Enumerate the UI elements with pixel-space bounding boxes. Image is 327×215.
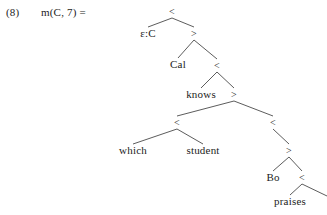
tree-node-n8: < <box>270 117 276 128</box>
tree-node-n9: which <box>119 145 147 156</box>
tree-node-n6: > <box>231 89 237 100</box>
tree-node-n5: knows <box>186 89 216 100</box>
figure-canvas: (8) m(C, 7) = <ε:C>Cal<knows><<whichstud… <box>0 0 327 215</box>
tree-edge-n4-n5 <box>201 72 217 88</box>
tree-edge-n2-n3 <box>178 40 194 58</box>
tree-edge-n4-n6 <box>217 72 234 88</box>
tree-node-n3: Cal <box>170 59 186 70</box>
tree-node-n2: > <box>191 28 197 39</box>
tree-node-n13: < <box>299 172 305 183</box>
tree-node-n14: praises <box>274 196 306 207</box>
tree-edge-n6-n8 <box>234 101 273 116</box>
tree-edge-n2-n4 <box>194 40 217 59</box>
tree-edge-n0-n1 <box>148 18 172 27</box>
tree-edge-n8-n11 <box>273 129 289 144</box>
tree-node-n4: < <box>214 60 220 71</box>
tree-edge-n13-n14 <box>290 184 302 195</box>
tree-node-n0: < <box>169 6 175 17</box>
tree-edge-n11-n12 <box>273 157 289 171</box>
tree-node-n1: ε:C <box>140 28 156 39</box>
tree-edge-n6-n7 <box>177 101 234 116</box>
tree-node-n7: < <box>174 117 180 128</box>
tree-edge-n0-n2 <box>172 18 194 27</box>
tree-edge-n7-n9 <box>133 129 177 144</box>
tree-edge-n11-n13 <box>289 157 302 171</box>
tree-node-n12: Bo <box>266 172 279 183</box>
tree-node-n10: student <box>186 145 219 156</box>
tree-edge-n7-n10 <box>177 129 203 144</box>
tree-node-n11: > <box>286 145 292 156</box>
